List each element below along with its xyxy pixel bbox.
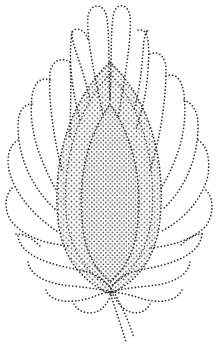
illustration-canvas — [0, 0, 219, 348]
dotted-paisley-illustration — [0, 0, 219, 348]
